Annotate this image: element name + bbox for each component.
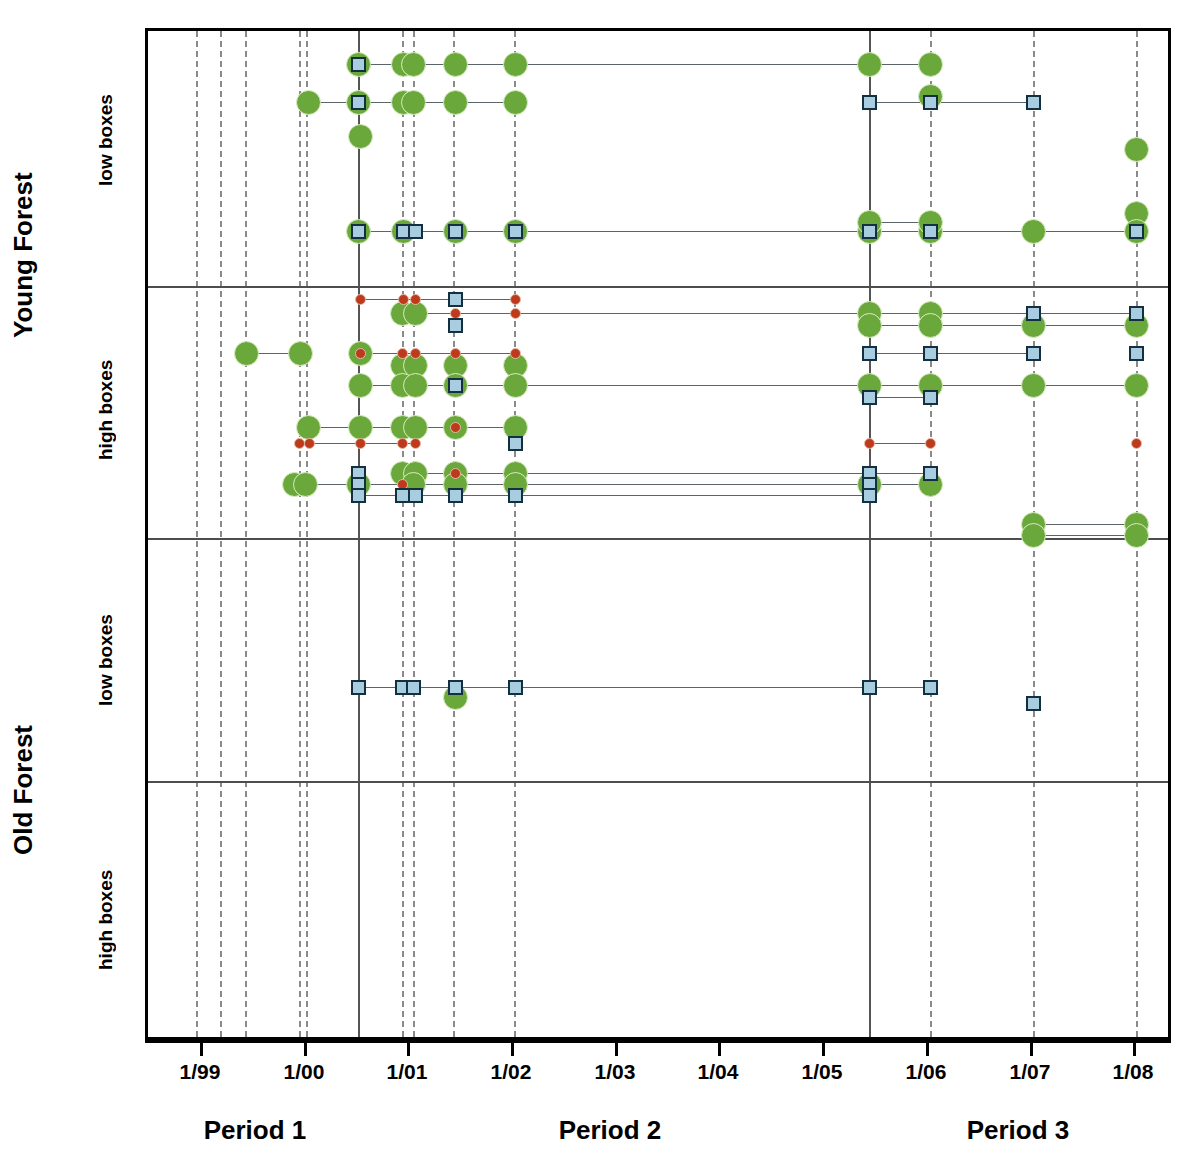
red-dot-marker bbox=[450, 422, 461, 433]
green-circle-marker bbox=[443, 52, 468, 77]
x-tick-1/03 bbox=[615, 1040, 618, 1056]
red-dot-marker bbox=[925, 438, 936, 449]
green-circle-marker bbox=[296, 415, 321, 440]
green-circle-marker bbox=[918, 52, 943, 77]
figure-root: Young Forest Old Forest low boxes high b… bbox=[0, 0, 1196, 1173]
red-dot-marker bbox=[355, 348, 366, 359]
connector-line bbox=[1033, 535, 1136, 536]
green-circle-marker bbox=[348, 124, 373, 149]
gridline-dashed-8 bbox=[514, 31, 516, 1037]
red-dot-marker bbox=[1131, 438, 1142, 449]
gridline-period-boundary-0 bbox=[358, 31, 360, 1037]
gridline-dashed-0 bbox=[196, 31, 198, 1037]
blue-square-marker bbox=[1129, 224, 1144, 239]
green-circle-marker bbox=[293, 472, 318, 497]
x-tick-1/99 bbox=[200, 1040, 203, 1056]
red-dot-marker bbox=[864, 438, 875, 449]
green-circle-marker bbox=[918, 313, 943, 338]
x-tick-label: 1/99 bbox=[180, 1060, 221, 1084]
gridline-dashed-3 bbox=[299, 31, 301, 1037]
blue-square-marker bbox=[406, 680, 421, 695]
blue-square-marker bbox=[351, 680, 366, 695]
gridline-dashed-1 bbox=[220, 31, 222, 1037]
gridline-period-boundary-1 bbox=[869, 31, 871, 1037]
blue-square-marker bbox=[862, 224, 877, 239]
green-circle-marker bbox=[857, 313, 882, 338]
red-dot-marker bbox=[450, 468, 461, 479]
group-label-young-forest: Young Forest bbox=[8, 140, 39, 370]
panel-divider-3 bbox=[148, 781, 1168, 783]
x-tick-1/04 bbox=[718, 1040, 721, 1056]
x-tick-1/07 bbox=[1030, 1040, 1033, 1056]
connector-line bbox=[869, 102, 1033, 103]
red-dot-marker bbox=[510, 294, 521, 305]
blue-square-marker bbox=[923, 224, 938, 239]
blue-square-marker bbox=[1129, 306, 1144, 321]
x-tick-label: 1/07 bbox=[1010, 1060, 1051, 1084]
red-dot-marker bbox=[397, 348, 408, 359]
x-tick-1/00 bbox=[304, 1040, 307, 1056]
red-dot-marker bbox=[410, 294, 421, 305]
x-axis bbox=[145, 1040, 1171, 1043]
blue-square-marker bbox=[408, 224, 423, 239]
blue-square-marker bbox=[508, 224, 523, 239]
green-circle-marker bbox=[401, 52, 426, 77]
blue-square-marker bbox=[351, 95, 366, 110]
green-circle-marker bbox=[857, 52, 882, 77]
red-dot-marker bbox=[397, 438, 408, 449]
blue-square-marker bbox=[448, 488, 463, 503]
gridline-dashed-4 bbox=[306, 31, 308, 1037]
red-dot-marker bbox=[510, 348, 521, 359]
red-dot-marker bbox=[355, 438, 366, 449]
green-circle-marker bbox=[348, 373, 373, 398]
blue-square-marker bbox=[1026, 346, 1041, 361]
panel-divider-1 bbox=[148, 286, 1168, 288]
x-tick-1/08 bbox=[1133, 1040, 1136, 1056]
green-circle-marker bbox=[1124, 137, 1149, 162]
green-circle-marker bbox=[296, 90, 321, 115]
blue-square-marker bbox=[923, 346, 938, 361]
green-circle-marker bbox=[1021, 219, 1046, 244]
green-circle-marker bbox=[288, 341, 313, 366]
blue-square-marker bbox=[508, 488, 523, 503]
row-label-young-high-boxes: high boxes bbox=[95, 330, 117, 490]
blue-square-marker bbox=[1026, 306, 1041, 321]
green-circle-marker bbox=[348, 415, 373, 440]
green-circle-marker bbox=[443, 90, 468, 115]
red-dot-marker bbox=[450, 348, 461, 359]
connector-line bbox=[360, 353, 515, 354]
green-circle-marker bbox=[1021, 373, 1046, 398]
blue-square-marker bbox=[923, 466, 938, 481]
green-circle-marker bbox=[1124, 523, 1149, 548]
green-circle-marker bbox=[403, 373, 428, 398]
x-tick-label: 1/01 bbox=[387, 1060, 428, 1084]
blue-square-marker bbox=[1026, 95, 1041, 110]
x-tick-label: 1/08 bbox=[1113, 1060, 1154, 1084]
green-circle-marker bbox=[403, 415, 428, 440]
green-circle-marker bbox=[234, 341, 259, 366]
blue-square-marker bbox=[862, 95, 877, 110]
blue-square-marker bbox=[448, 292, 463, 307]
x-tick-label: 1/02 bbox=[491, 1060, 532, 1084]
x-tick-label: 1/03 bbox=[595, 1060, 636, 1084]
connector-line bbox=[358, 64, 869, 65]
blue-square-marker bbox=[448, 224, 463, 239]
red-dot-marker bbox=[294, 438, 305, 449]
red-dot-marker bbox=[410, 438, 421, 449]
blue-square-marker bbox=[351, 57, 366, 72]
row-label-old-low-boxes: low boxes bbox=[95, 580, 117, 740]
connector-line bbox=[358, 495, 869, 496]
blue-square-marker bbox=[862, 488, 877, 503]
period-label-3: Period 3 bbox=[967, 1115, 1070, 1146]
plot-area bbox=[145, 28, 1171, 1040]
blue-square-marker bbox=[351, 488, 366, 503]
blue-square-marker bbox=[448, 378, 463, 393]
red-dot-marker bbox=[398, 294, 409, 305]
red-dot-marker bbox=[410, 348, 421, 359]
x-tick-label: 1/04 bbox=[698, 1060, 739, 1084]
x-tick-1/06 bbox=[926, 1040, 929, 1056]
blue-square-marker bbox=[508, 680, 523, 695]
blue-square-marker bbox=[1026, 696, 1041, 711]
gridline-dashed-6 bbox=[413, 31, 415, 1037]
red-dot-marker bbox=[510, 308, 521, 319]
